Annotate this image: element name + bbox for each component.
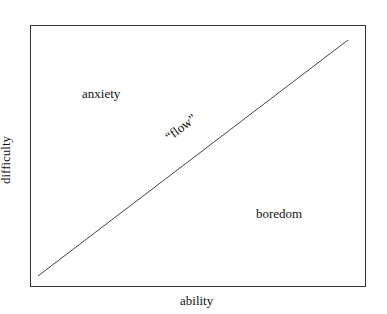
y-axis-label: difficulty [0, 136, 14, 184]
boredom-region-label: boredom [256, 206, 302, 222]
flow-diagonal-line [0, 0, 387, 314]
x-axis-label: ability [180, 293, 213, 309]
anxiety-region-label: anxiety [82, 86, 120, 102]
